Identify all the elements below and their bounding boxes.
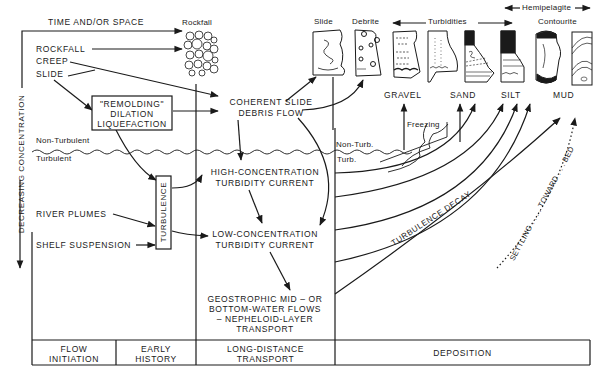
stage-line: HISTORY xyxy=(116,354,196,364)
grain-size-sand: SAND xyxy=(450,91,476,100)
remolding-box-text: "REMOLDING" DILATION LIQUEFACTION xyxy=(92,99,172,129)
grain-size-silt: SILT xyxy=(501,91,521,100)
stage-line: EARLY xyxy=(116,344,196,354)
stage-line: INITIATION xyxy=(32,354,116,364)
transport-line: TRANSPORT xyxy=(198,324,332,334)
turbidity-current-line: TURBIDITY CURRENT xyxy=(204,240,326,251)
freezing-label: Freezing xyxy=(407,121,440,129)
process-rockfall: ROCKFALL xyxy=(36,45,85,54)
stage-flow-initiation: FLOW INITIATION xyxy=(32,344,116,364)
slide-facies-icon xyxy=(313,30,345,75)
dilation-line: DILATION xyxy=(92,109,172,119)
bottom-water-line: BOTTOM-WATER FLOWS xyxy=(198,304,332,314)
debris-flow-line: DEBRIS FLOW xyxy=(216,108,326,119)
grain-size-gravel: GRAVEL xyxy=(384,91,421,100)
nepheloid-line: – NEPHELOID-LAYER xyxy=(198,314,332,324)
stage-line: TRANSPORT xyxy=(196,354,335,364)
concentration-axis-label: DECREASING CONCENTRATION xyxy=(18,94,26,234)
contourite-facies-icon xyxy=(536,31,561,83)
stage-line: DEPOSITION xyxy=(335,349,590,358)
turbidity-current-line: TURBIDITY CURRENT xyxy=(200,178,330,189)
node-coherent-slide: COHERENT SLIDE DEBRIS FLOW xyxy=(216,97,326,119)
non-turbulent-label: Non-Turbulent xyxy=(36,137,89,145)
process-shelf-suspension: SHELF SUSPENSION xyxy=(36,241,131,250)
flow-regime-boundary xyxy=(32,150,412,154)
silt-turbidite-icon xyxy=(465,31,494,82)
high-conc-line: HIGH-CONCENTRATION xyxy=(200,167,330,178)
coherent-slide-line: COHERENT SLIDE xyxy=(216,97,326,108)
mud-turbidite-icon xyxy=(501,31,524,82)
geostrophic-line: GEOSTROPHIC MID – OR xyxy=(198,294,332,304)
turbidities-label: Turbidities xyxy=(428,18,467,26)
slide-facies-label: Slide xyxy=(314,18,333,26)
stage-early-history: EARLY HISTORY xyxy=(116,344,196,364)
rockfall-facies-label: Rockfall xyxy=(182,19,212,27)
process-river-plumes: RIVER PLUMES xyxy=(36,210,107,219)
sand-turbidite-icon xyxy=(428,31,458,82)
grain-size-mud: MUD xyxy=(553,91,574,100)
rockfall-facies-icon xyxy=(184,31,218,76)
debrite-facies-label: Debrite xyxy=(352,18,379,26)
non-turb-short-label: Non-Turb. xyxy=(336,141,374,149)
time-axis-label: TIME AND/OR SPACE xyxy=(48,18,144,27)
hemipelagite-label: Hemipelagite xyxy=(522,4,571,12)
node-high-concentration: HIGH-CONCENTRATION TURBIDITY CURRENT xyxy=(200,167,330,189)
contourite-label: Contourite xyxy=(538,18,577,26)
node-low-concentration: LOW-CONCENTRATION TURBIDITY CURRENT xyxy=(204,229,326,251)
remolding-line: "REMOLDING" xyxy=(92,99,172,109)
turbulent-label: Turbulent xyxy=(36,155,71,163)
turbulence-box-label: TURBULENCE xyxy=(160,177,168,247)
process-creep: CREEP xyxy=(36,57,68,66)
process-slide: SLIDE xyxy=(36,70,64,79)
node-geostrophic: GEOSTROPHIC MID – OR BOTTOM-WATER FLOWS … xyxy=(198,294,332,334)
debrite-facies-icon xyxy=(355,30,381,76)
stage-line: LONG-DISTANCE xyxy=(196,344,335,354)
gravel-turbidite-icon xyxy=(393,31,420,78)
stage-line: FLOW xyxy=(32,344,116,354)
liquefaction-line: LIQUEFACTION xyxy=(92,119,172,129)
turb-short-label: Turb. xyxy=(337,156,356,164)
stage-long-distance-transport: LONG-DISTANCE TRANSPORT xyxy=(196,344,335,364)
stage-deposition: DEPOSITION xyxy=(335,349,590,358)
low-conc-line: LOW-CONCENTRATION xyxy=(204,229,326,240)
hemipelagite-facies-icon xyxy=(572,32,592,85)
